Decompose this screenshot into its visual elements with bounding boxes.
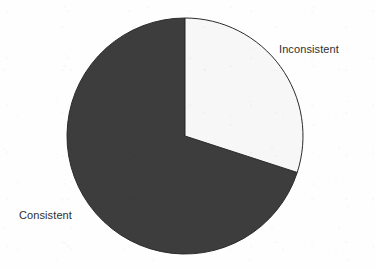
pie-label-consistent: Consistent	[19, 209, 72, 221]
pie-label-inconsistent: Inconsistent	[279, 43, 339, 55]
pie-chart-figure: Inconsistent Consistent	[0, 0, 375, 269]
pie-chart-graphic	[0, 0, 375, 269]
